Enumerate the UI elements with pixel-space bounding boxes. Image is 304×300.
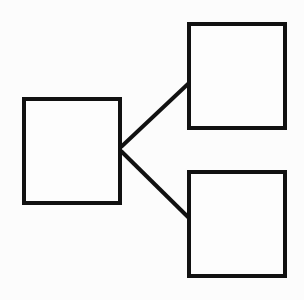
diagram-canvas bbox=[0, 0, 304, 300]
connector-root-to-top bbox=[121, 83, 189, 147]
root-node-box bbox=[24, 99, 120, 203]
child-top-node-box bbox=[189, 24, 285, 128]
connector-root-to-bottom bbox=[121, 151, 189, 218]
child-bottom-node-box bbox=[189, 172, 285, 276]
tree-diagram bbox=[0, 0, 304, 300]
